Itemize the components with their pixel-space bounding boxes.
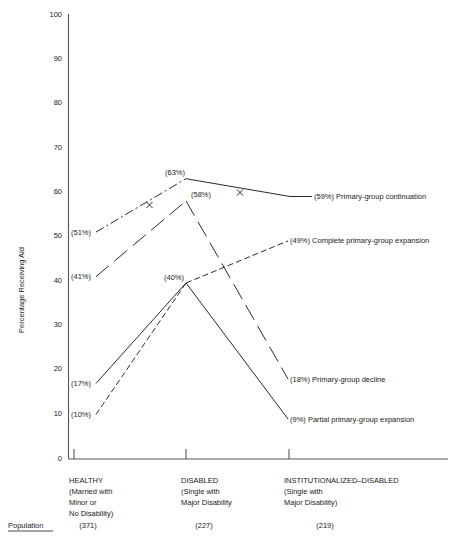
x-axis-tick-marks [74,449,289,459]
y-tick-90: 90 [54,54,62,63]
annotation-58-percent: (58%) [191,190,212,199]
category-sublabel-healthy-2: Minor or [69,498,97,507]
population-row-label: Population [8,521,43,530]
y-tick-40: 40 [54,276,62,285]
population-row: Population (371) (227) (219) [8,521,334,531]
y-axis-tick-labels: 100 90 80 70 60 50 40 30 20 10 0 [49,10,62,463]
category-label-institutionalized-disabled: INSTITUTIONALIZED–DISABLED [284,476,399,485]
category-sublabel-inst-1: (Single with [284,487,323,496]
y-tick-10: 10 [54,409,62,418]
y-tick-30: 30 [54,320,62,329]
series-primary-group-continuation [96,179,312,232]
category-label-disabled: DISABLED [181,476,219,485]
y-tick-50: 50 [54,231,62,240]
category-sublabel-healthy-3: No Disability) [69,509,114,518]
y-tick-80: 80 [54,98,62,107]
population-value-institutionalized-disabled: (219) [316,521,334,530]
y-axis-title: Percentage Receiving Aid [17,247,26,333]
y-tick-60: 60 [54,187,62,196]
series-primary-group-decline [96,201,288,379]
line-chart: 100 90 80 70 60 50 40 30 20 10 0 Percent… [0,0,451,542]
series-end-label-complete-primary-group-expansion: (49%) Complete primary-group expansion [290,236,429,245]
series-complete-primary-group-expansion [96,241,288,415]
annotation-17-percent: (17%) [71,379,92,388]
y-tick-70: 70 [54,143,62,152]
population-value-healthy: (371) [79,521,97,530]
chart-canvas: 100 90 80 70 60 50 40 30 20 10 0 Percent… [0,0,451,542]
category-sublabel-healthy-1: (Married with [69,487,112,496]
series4-segment-disabled-to-institutionalized [186,283,288,419]
series-end-label-primary-group-continuation: (59%) Primary-group continuation [314,192,426,201]
category-sublabel-disabled-1: (Single with [181,487,220,496]
x-axis-category-healthy: HEALTHY (Married with Minor or No Disabi… [69,476,114,518]
annotation-10-percent: (10%) [71,410,92,419]
series1-marker-x-2 [237,190,243,196]
series-end-label-primary-group-decline: (18%) Primary-group decline [290,375,385,384]
x-axis-category-disabled: DISABLED (Single with Major Disability [181,476,232,507]
series1-segment-healthy-to-disabled [96,179,186,232]
population-value-disabled: (227) [195,521,213,530]
y-tick-0: 0 [58,454,62,463]
series-partial-primary-group-expansion [96,283,288,419]
x-axis-category-institutionalized-disabled: INSTITUTIONALIZED–DISABLED (Single with … [284,476,399,507]
series2-segment-healthy-to-disabled [96,283,186,415]
category-sublabel-disabled-2: Major Disability [181,498,232,507]
y-tick-100: 100 [49,10,62,19]
series2-segment-disabled-to-institutionalized [186,241,288,283]
annotation-41-percent: (41%) [71,272,92,281]
series3-segment-healthy-to-disabled [96,201,186,277]
y-tick-20: 20 [54,364,62,373]
annotation-51-percent: (51%) [71,228,92,237]
series1-marker-x-1 [147,202,153,208]
series-end-label-partial-primary-group-expansion: (9%) Partial primary-group expansion [290,415,414,424]
series4-segment-healthy-to-disabled [96,283,186,383]
annotation-40-percent: (40%) [164,273,185,282]
category-label-healthy: HEALTHY [69,476,103,485]
category-sublabel-inst-2: Major Disability) [284,498,338,507]
series3-segment-disabled-to-institutionalized [186,201,288,379]
annotation-63-percent: (63%) [165,168,186,177]
